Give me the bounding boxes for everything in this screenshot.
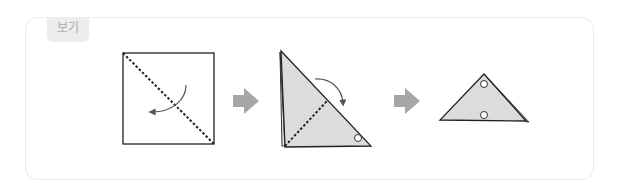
- triangle-fold-icon: [280, 51, 371, 147]
- origami-diagram: [0, 0, 618, 190]
- final-triangle-icon: [440, 74, 529, 122]
- step-arrow-icon: [394, 88, 420, 114]
- square-paper-icon: [123, 53, 214, 144]
- step-arrow-icon: [233, 88, 259, 114]
